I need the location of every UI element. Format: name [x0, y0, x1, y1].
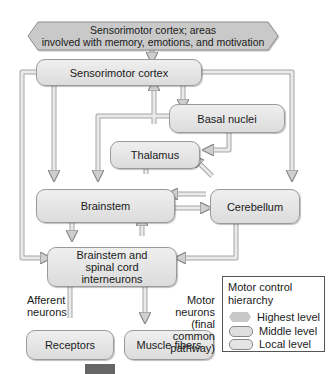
legend-item-middle: Middle level: [229, 325, 317, 337]
node-highest-level: Sensorimotor cortex; areas involved with…: [38, 22, 268, 50]
rounded-rect-swatch-icon: [229, 326, 253, 337]
node-sensorimotor-cortex: Sensorimotor cortex: [36, 59, 202, 86]
motor-line3: pathway): [149, 342, 215, 354]
interneurons-line1: Brainstem and: [77, 249, 148, 261]
scan-artifact: [85, 364, 115, 374]
thalamus-label: Thalamus: [131, 149, 179, 161]
node-receptors: Receptors: [26, 330, 114, 360]
legend-title: Motor control hierarchy: [228, 281, 292, 307]
motor-neurons-label: Motor neurons (final common pathway): [149, 294, 215, 354]
interneurons-line3: interneurons: [81, 273, 142, 285]
highest-level-line1: Sensorimotor cortex; areas: [90, 24, 216, 36]
rounded-rect-swatch-icon: [229, 339, 253, 350]
interneurons-line2: spinal cord: [85, 261, 138, 273]
hexagon-swatch-icon: [229, 312, 251, 322]
node-basal-nuclei: Basal nuclei: [169, 104, 285, 133]
highest-level-line2: involved with memory, emotions, and moti…: [42, 36, 265, 48]
motor-line1: Motor neurons: [149, 294, 215, 318]
afferent-line1: Afferent: [27, 294, 67, 306]
afferent-neurons-label: Afferent neurons: [27, 294, 67, 318]
legend: Motor control hierarchy Highest level Mi…: [222, 276, 325, 352]
legend-title-line2: hierarchy: [228, 294, 292, 307]
cerebellum-label: Cerebellum: [227, 201, 283, 213]
legend-item-label: Middle level: [259, 325, 317, 337]
afferent-line2: neurons: [27, 306, 67, 318]
node-cerebellum: Cerebellum: [210, 189, 300, 224]
sensorimotor-cortex-label: Sensorimotor cortex: [70, 67, 168, 79]
receptors-label: Receptors: [45, 339, 95, 351]
basal-nuclei-label: Basal nuclei: [197, 113, 256, 125]
legend-item-label: Local level: [259, 338, 311, 350]
legend-item-highest: Highest level: [229, 311, 320, 323]
legend-item-label: Highest level: [257, 311, 320, 323]
node-interneurons: Brainstem and spinal cord interneurons: [47, 247, 177, 287]
node-thalamus: Thalamus: [110, 141, 200, 169]
brainstem-label: Brainstem: [81, 200, 131, 212]
node-brainstem: Brainstem: [36, 189, 175, 223]
legend-item-local: Local level: [229, 338, 311, 350]
legend-title-line1: Motor control: [228, 281, 292, 294]
motor-line2: (final common: [149, 318, 215, 342]
